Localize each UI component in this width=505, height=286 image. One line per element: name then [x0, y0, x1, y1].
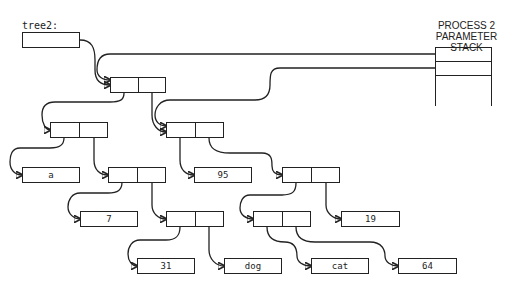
- tree-node-l1-right: [166, 122, 224, 138]
- leaf-7: 7: [80, 211, 138, 227]
- leaf-dog: dog: [224, 258, 282, 274]
- leaf-a: a: [22, 167, 80, 183]
- leaf-64: 64: [398, 258, 457, 274]
- stack-slot-2: [436, 62, 491, 76]
- leaf-31: 31: [137, 258, 195, 274]
- right-pointer-cell: [138, 168, 166, 182]
- tree-node-l2-a: [108, 167, 166, 183]
- tree-node-l3-a: [166, 211, 224, 227]
- right-pointer-cell: [283, 212, 311, 226]
- right-pointer-cell: [196, 123, 224, 137]
- stack-title-line1: PROCESS 2: [428, 20, 505, 31]
- left-pointer-cell: [254, 212, 283, 226]
- left-pointer-cell: [167, 212, 196, 226]
- left-pointer-cell: [109, 168, 138, 182]
- leaf-95: 95: [194, 167, 252, 183]
- left-pointer-cell: [283, 168, 312, 182]
- leaf-cat: cat: [311, 258, 369, 274]
- right-pointer-cell: [139, 78, 166, 92]
- left-pointer-cell: [111, 78, 139, 92]
- right-pointer-cell: [196, 212, 224, 226]
- tree-node-l1-left: [50, 122, 108, 138]
- tree-node-l2-b: [282, 167, 340, 183]
- variable-label: tree2:: [22, 20, 58, 31]
- leaf-19: 19: [341, 211, 400, 227]
- parameter-stack: [435, 47, 492, 106]
- stack-slot-1: [436, 48, 491, 62]
- tree2-pointer-box: [22, 32, 80, 48]
- right-pointer-cell: [312, 168, 340, 182]
- right-pointer-cell: [80, 123, 108, 137]
- tree-node-l3-b: [253, 211, 311, 227]
- tree-node-root: [110, 77, 166, 93]
- left-pointer-cell: [167, 123, 196, 137]
- left-pointer-cell: [51, 123, 80, 137]
